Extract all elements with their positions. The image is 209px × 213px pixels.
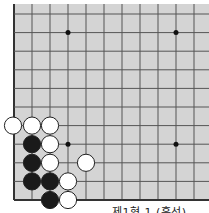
white-stone[interactable] [41, 154, 58, 171]
white-stone[interactable] [59, 191, 76, 208]
star-point [66, 142, 71, 147]
board-surface [14, 4, 209, 200]
go-board[interactable] [0, 0, 209, 213]
star-point [66, 30, 71, 35]
star-point [174, 142, 179, 147]
white-stone[interactable] [4, 117, 21, 134]
white-stone[interactable] [59, 173, 76, 190]
white-stone[interactable] [77, 154, 94, 171]
black-stone[interactable] [41, 173, 58, 190]
black-stone[interactable] [23, 136, 40, 153]
white-stone[interactable] [41, 136, 58, 153]
white-stone[interactable] [41, 117, 58, 134]
star-point [174, 30, 179, 35]
white-stone[interactable] [23, 117, 40, 134]
black-stone[interactable] [23, 173, 40, 190]
black-stone[interactable] [23, 154, 40, 171]
problem-caption: 제1형 1 (흑선) [112, 203, 187, 213]
black-stone[interactable] [41, 191, 58, 208]
